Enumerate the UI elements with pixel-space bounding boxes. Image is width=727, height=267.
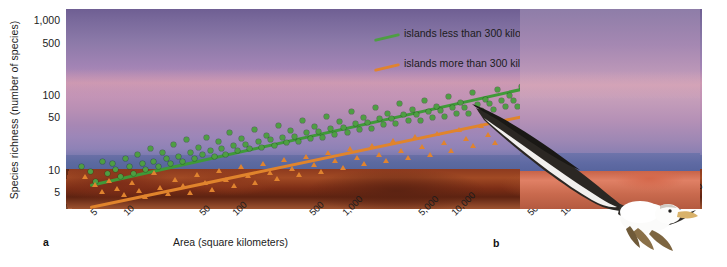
data-point: [129, 180, 135, 185]
data-point: [142, 194, 148, 199]
figure: Species richness (number of species) 510…: [0, 0, 727, 267]
data-point: [485, 132, 491, 137]
data-point: [478, 123, 484, 128]
data-point: [281, 157, 287, 162]
data-point: [131, 171, 136, 176]
data-point: [276, 123, 281, 128]
data-point: [118, 174, 123, 179]
data-point: [456, 127, 462, 132]
data-point: [259, 145, 264, 150]
data-point: [324, 114, 329, 119]
data-point: [470, 90, 475, 95]
data-point: [434, 131, 440, 136]
data-point: [491, 107, 496, 112]
x-axis-tick-labels: 510501005001,0005,00010,00050,000100,000…: [66, 210, 706, 244]
data-point: [260, 161, 266, 166]
data-point: [296, 139, 301, 144]
data-point: [405, 155, 411, 160]
data-point: [318, 169, 324, 174]
data-point: [345, 130, 350, 135]
data-point: [448, 148, 454, 153]
data-point: [463, 136, 469, 141]
panel-b-photo: [520, 9, 700, 209]
data-point: [114, 186, 120, 191]
data-point: [492, 140, 498, 145]
data-point: [332, 132, 337, 137]
data-point: [274, 176, 280, 181]
data-point: [288, 128, 293, 133]
y-axis-tick-labels: 510501005001,000: [12, 0, 60, 215]
data-point: [113, 167, 118, 172]
data-point: [349, 109, 354, 114]
data-point: [499, 98, 504, 103]
data-point: [121, 192, 127, 197]
data-point: [136, 188, 142, 193]
y-tick-50: 50: [14, 112, 60, 122]
data-point: [466, 111, 471, 116]
data-point: [187, 190, 193, 195]
data-point: [347, 146, 353, 151]
data-point: [256, 139, 261, 144]
data-point: [100, 159, 105, 164]
data-point: [300, 118, 305, 123]
data-point: [389, 116, 394, 121]
data-point: [303, 154, 309, 159]
data-point: [414, 112, 419, 117]
data-point: [354, 155, 360, 160]
data-point: [238, 164, 244, 169]
data-point: [406, 118, 411, 123]
data-point: [361, 115, 366, 120]
data-point: [353, 121, 358, 126]
data-point: [171, 142, 176, 147]
data-point: [507, 93, 512, 98]
data-point: [495, 87, 500, 92]
data-point: [385, 111, 390, 116]
data-point: [208, 148, 213, 153]
data-point: [99, 189, 105, 194]
y-tick-1,000: 1,000: [14, 15, 60, 25]
data-point: [341, 125, 346, 130]
data-point: [110, 161, 115, 166]
data-point: [454, 111, 459, 116]
data-point: [157, 185, 163, 190]
data-point: [204, 135, 209, 140]
data-point: [438, 108, 443, 113]
data-point: [227, 130, 232, 135]
data-point: [357, 127, 362, 132]
y-tick-500: 500: [14, 38, 60, 48]
x-axis-title: Area (square kilometers): [173, 236, 288, 248]
data-point: [272, 143, 277, 148]
data-point: [216, 139, 221, 144]
data-point: [165, 191, 171, 196]
data-point: [267, 170, 273, 175]
data-point: [194, 172, 200, 177]
data-point: [123, 156, 128, 161]
data-point: [446, 94, 451, 99]
photo-haze: [520, 71, 700, 99]
data-point: [140, 161, 145, 166]
data-point: [410, 107, 415, 112]
data-point: [390, 138, 396, 143]
data-point: [487, 101, 492, 106]
data-point: [180, 159, 185, 164]
data-point: [369, 143, 375, 148]
data-point: [340, 165, 346, 170]
data-point: [209, 187, 215, 192]
data-point: [383, 158, 389, 163]
data-point: [105, 171, 110, 176]
data-point: [361, 161, 367, 166]
data-point: [499, 120, 505, 125]
data-point: [470, 143, 476, 148]
data-point: [332, 158, 338, 163]
data-point: [289, 166, 295, 171]
data-point: [393, 121, 398, 126]
data-point: [365, 120, 370, 125]
data-point: [200, 152, 205, 157]
data-point: [284, 140, 289, 145]
data-point: [475, 102, 480, 107]
data-point: [427, 152, 433, 157]
data-point: [312, 124, 317, 129]
data-point: [381, 122, 386, 127]
data-point: [79, 164, 84, 169]
data-point: [412, 134, 418, 139]
